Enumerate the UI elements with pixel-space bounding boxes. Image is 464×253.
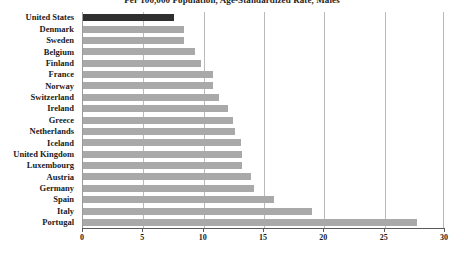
bar-row — [83, 194, 443, 205]
bar — [83, 151, 242, 158]
bar-highlighted — [83, 14, 174, 21]
y-axis-label: Netherlands — [0, 126, 78, 137]
y-axis-label: Denmark — [0, 23, 78, 34]
y-axis-label: United States — [0, 12, 78, 23]
x-axis-tick — [384, 229, 385, 232]
x-axis-tick — [444, 229, 445, 232]
bar-chart: Per 100,000 Population, Age-Standardized… — [0, 0, 464, 253]
bar-row — [83, 149, 443, 160]
y-axis-label: Switzerland — [0, 92, 78, 103]
x-axis-tick-label: 10 — [199, 233, 207, 243]
bar-row — [83, 171, 443, 182]
y-axis-label: Norway — [0, 80, 78, 91]
x-axis-tick-label: 0 — [80, 233, 84, 243]
bar-row — [83, 46, 443, 57]
bar — [83, 37, 184, 44]
x-axis-tick — [82, 229, 83, 232]
y-axis-label: France — [0, 69, 78, 80]
bar — [83, 60, 201, 67]
y-axis-label: United Kingdom — [0, 149, 78, 160]
x-axis-tick — [323, 229, 324, 232]
bar-row — [83, 23, 443, 34]
y-axis-label: Portugal — [0, 217, 78, 228]
bar-row — [83, 217, 443, 228]
x-axis-tick-label: 25 — [380, 233, 388, 243]
y-axis-label: Spain — [0, 194, 78, 205]
bar-series — [83, 12, 443, 228]
bar — [83, 173, 251, 180]
bar — [83, 26, 184, 33]
bar-row — [83, 114, 443, 125]
y-axis-label: Finland — [0, 58, 78, 69]
bar — [83, 105, 228, 112]
bar — [83, 208, 312, 215]
plot-area — [82, 12, 444, 228]
y-axis-label: Italy — [0, 205, 78, 216]
chart-title: Per 100,000 Population, Age-Standardized… — [0, 0, 464, 6]
bar-row — [83, 160, 443, 171]
y-axis-label: Sweden — [0, 35, 78, 46]
x-axis-tick — [203, 229, 204, 232]
bar — [83, 82, 213, 89]
bar — [83, 94, 219, 101]
bar — [83, 196, 274, 203]
x-axis-tick — [263, 229, 264, 232]
y-axis-category-labels: United StatesDenmarkSwedenBelgiumFinland… — [0, 12, 78, 228]
bar-row — [83, 103, 443, 114]
bar-row — [83, 80, 443, 91]
bar — [83, 219, 417, 226]
bar — [83, 162, 242, 169]
bar-row — [83, 12, 443, 23]
y-axis-label: Iceland — [0, 137, 78, 148]
bar — [83, 139, 241, 146]
x-axis-tick-label: 30 — [440, 233, 448, 243]
bar — [83, 71, 213, 78]
y-axis-label: Greece — [0, 114, 78, 125]
bar — [83, 117, 233, 124]
y-axis-label: Luxembourg — [0, 160, 78, 171]
bar-row — [83, 205, 443, 216]
bar-row — [83, 35, 443, 46]
y-axis-label: Germany — [0, 183, 78, 194]
x-axis-tick-label: 5 — [140, 233, 144, 243]
bar — [83, 128, 235, 135]
bar-row — [83, 183, 443, 194]
x-axis-tick-label: 20 — [319, 233, 327, 243]
y-axis-label: Austria — [0, 171, 78, 182]
bar-row — [83, 92, 443, 103]
x-axis-ticks: 051015202530 — [0, 229, 464, 249]
x-axis-tick — [142, 229, 143, 232]
y-axis-label: Ireland — [0, 103, 78, 114]
x-axis-tick-label: 15 — [259, 233, 267, 243]
bar-row — [83, 69, 443, 80]
bar-row — [83, 137, 443, 148]
bar-row — [83, 126, 443, 137]
bar — [83, 48, 195, 55]
bar — [83, 185, 254, 192]
y-axis-label: Belgium — [0, 46, 78, 57]
bar-row — [83, 58, 443, 69]
